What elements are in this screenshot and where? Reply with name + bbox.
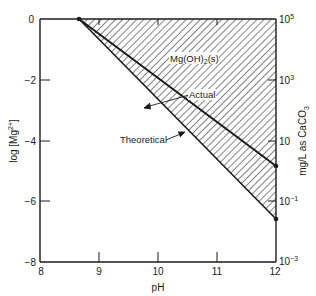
x-tick-9: 9 <box>96 266 102 277</box>
r-tick-1e5: 105 <box>279 13 294 25</box>
bottom-ticks <box>99 252 217 262</box>
r-tick-10: 10 <box>279 136 291 147</box>
x-axis-title: pH <box>152 282 165 293</box>
r-tick-1e-1: 10−1 <box>279 195 298 207</box>
y-axis-left-title: log [Mg2+] <box>7 119 19 163</box>
x-tick-8: 8 <box>38 266 44 277</box>
region-label: Mg(OH)2(s) <box>169 52 219 65</box>
x-tick-11: 11 <box>212 266 223 277</box>
x-tick-10: 10 <box>152 266 164 277</box>
chart-canvas: 0 −2 −4 −6 −8 8 9 10 11 12 105 103 10 10… <box>0 0 316 296</box>
r-tick-1e3: 103 <box>279 74 294 86</box>
actual-end-point <box>274 164 279 169</box>
left-ticks <box>40 80 50 201</box>
actual-label: Actual <box>188 89 216 100</box>
theoretical-arrow <box>166 132 185 140</box>
y-tick-neg8: −8 <box>25 257 37 268</box>
svg-text:Mg(OH)2(s): Mg(OH)2(s) <box>170 53 219 65</box>
y-tick-neg2: −2 <box>25 75 37 86</box>
y-tick-neg6: −6 <box>25 196 37 207</box>
theoretical-end-point <box>274 217 279 222</box>
svg-text:Actual: Actual <box>189 89 215 100</box>
start-point <box>77 17 82 22</box>
y-tick-0: 0 <box>28 14 34 25</box>
theoretical-label: Theoretical <box>120 134 167 145</box>
x-tick-12: 12 <box>269 266 281 277</box>
y-axis-right-title: mg/L as CaCO3 <box>297 106 310 176</box>
r-tick-1e-3: 10−3 <box>279 255 298 267</box>
y-tick-neg4: −4 <box>25 136 37 147</box>
